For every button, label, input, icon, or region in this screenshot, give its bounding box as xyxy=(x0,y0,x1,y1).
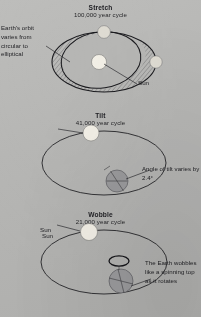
tilt-diagram xyxy=(0,108,201,207)
sun-wobble-leader xyxy=(57,225,80,231)
sun-label-wobble: Sun xyxy=(40,226,51,233)
sun-tilt-leader xyxy=(58,129,83,133)
sun-wobble xyxy=(81,224,98,241)
milankovitch-cycles-figure: Stretch 100,000 year cycle Earth's orbit… xyxy=(0,0,201,317)
precession-circle xyxy=(109,256,129,266)
wobble-callout: The Earth wobbles like a spinning top as… xyxy=(145,259,201,285)
stretch-diagram xyxy=(0,0,201,108)
earth-right xyxy=(150,56,162,68)
section-stretch: Stretch 100,000 year cycle Earth's orbit… xyxy=(0,0,201,108)
sun-stretch xyxy=(92,55,107,70)
tilt-callout: Angle of tilt varies by 2.4° xyxy=(142,165,200,183)
section-tilt: Tilt 41,000 year cycle Sun xyxy=(0,108,201,207)
sun-label-stretch: Sun xyxy=(138,79,149,86)
tilt-angle-tick xyxy=(104,166,110,170)
earth-top xyxy=(98,26,111,39)
tilt-orbit xyxy=(42,131,166,195)
sun-tilt xyxy=(83,125,99,141)
